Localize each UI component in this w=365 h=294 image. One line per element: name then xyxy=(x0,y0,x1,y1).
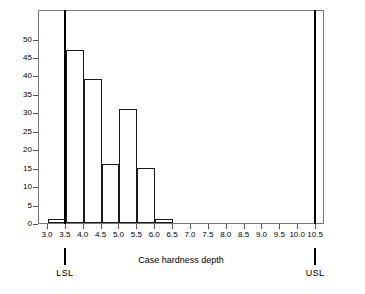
y-axis-tick xyxy=(33,40,38,41)
y-axis-tick xyxy=(33,132,38,133)
y-axis-tick-label: 10 xyxy=(10,183,32,191)
y-axis-tick-label: 40 xyxy=(10,72,32,80)
y-axis-tick xyxy=(33,224,38,225)
spec-limit-line-lsl xyxy=(64,10,66,224)
x-axis-tick xyxy=(297,224,298,229)
y-axis-tick-label: 15 xyxy=(10,165,32,173)
x-axis-tick xyxy=(208,224,209,229)
y-axis-tick-label: 5 xyxy=(10,202,32,210)
x-axis-tick xyxy=(83,224,84,229)
x-axis-tick xyxy=(261,224,262,229)
x-axis-tick xyxy=(226,224,227,229)
x-axis-tick xyxy=(118,224,119,229)
y-axis-tick-label: 50 xyxy=(10,36,32,44)
y-axis-tick xyxy=(33,169,38,170)
histogram-bar xyxy=(137,168,155,223)
histogram-bar xyxy=(84,79,102,223)
y-axis-tick-label: 20 xyxy=(10,146,32,154)
spec-limit-line-usl xyxy=(314,10,316,224)
y-axis-tick xyxy=(33,58,38,59)
plot-frame xyxy=(38,10,324,224)
y-axis-tick-label: 0 xyxy=(10,220,32,228)
y-axis-tick xyxy=(33,113,38,114)
y-axis-tick-label: 35 xyxy=(10,91,32,99)
x-axis-tick xyxy=(65,224,66,229)
x-axis-tick xyxy=(279,224,280,229)
y-axis-tick xyxy=(33,187,38,188)
y-axis-tick xyxy=(33,76,38,77)
histogram-bar xyxy=(119,109,137,223)
y-axis-tick xyxy=(33,95,38,96)
x-axis-tick xyxy=(315,224,316,229)
y-axis-tick xyxy=(33,150,38,151)
histogram-bar xyxy=(155,219,173,223)
x-axis-tick xyxy=(136,224,137,229)
x-axis-tick xyxy=(154,224,155,229)
x-axis-tick xyxy=(172,224,173,229)
spec-limit-label-usl: USL xyxy=(295,268,335,278)
x-axis-tick xyxy=(101,224,102,229)
x-axis-tick-label: 10.5 xyxy=(302,231,328,239)
y-axis-tick-label: 30 xyxy=(10,109,32,117)
x-axis-tick xyxy=(190,224,191,229)
x-axis-tick xyxy=(47,224,48,229)
histogram-chart: Frequency 051015202530354045503.03.54.04… xyxy=(0,0,365,294)
y-axis-tick-label: 45 xyxy=(10,54,32,62)
y-axis-tick-label: 25 xyxy=(10,128,32,136)
x-axis-tick xyxy=(244,224,245,229)
y-axis-tick xyxy=(33,206,38,207)
plot-area xyxy=(39,11,323,223)
histogram-bar xyxy=(102,164,120,223)
x-axis-label: Case hardness depth xyxy=(38,255,324,265)
spec-limit-label-lsl: LSL xyxy=(45,268,85,278)
histogram-bar xyxy=(66,50,84,223)
